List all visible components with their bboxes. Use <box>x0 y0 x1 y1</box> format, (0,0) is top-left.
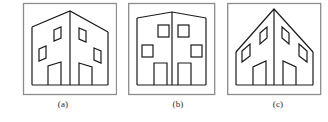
panel-row <box>0 0 328 100</box>
panel-a <box>15 0 117 97</box>
caption-panel-c: (c) <box>228 97 328 122</box>
panel-a-frame <box>15 0 117 97</box>
caption-panel-a: (a) <box>8 97 118 122</box>
panel-b <box>128 0 216 97</box>
caption-row: (a) (b) (c) <box>0 97 328 122</box>
figure-container: (a) (b) (c) <box>0 0 328 122</box>
panel-c <box>227 0 322 97</box>
caption-panel-b: (b) <box>128 97 228 122</box>
panel-b-frame <box>128 0 216 97</box>
panel-c-frame <box>227 0 322 97</box>
